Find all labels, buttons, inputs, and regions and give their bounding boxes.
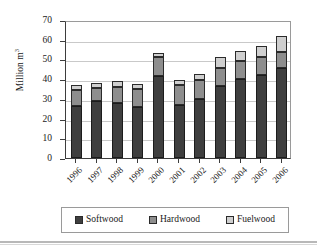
bar-segment-hardwood[interactable] <box>91 88 102 101</box>
bar-segment-fuelwood[interactable] <box>215 57 226 68</box>
bar-segment-hardwood[interactable] <box>174 85 185 105</box>
bar-segment-fuelwood[interactable] <box>71 85 82 90</box>
bar-segment-softwood[interactable] <box>153 76 164 158</box>
y-axis-tick-label: 50 <box>30 55 52 65</box>
y-axis-tick-label: 40 <box>30 75 52 85</box>
legend-label: Fuelwood <box>237 215 275 225</box>
legend-label: Hardwood <box>160 215 200 225</box>
bar-segment-softwood[interactable] <box>276 68 287 158</box>
bar-segment-hardwood[interactable] <box>112 87 123 103</box>
x-axis-tick <box>240 159 241 163</box>
y-axis-title: Million m3 <box>13 24 25 116</box>
bar-segment-softwood[interactable] <box>132 107 143 158</box>
gridline <box>66 42 290 43</box>
bar-segment-softwood[interactable] <box>215 86 226 158</box>
y-axis-tick-label: 70 <box>30 16 52 26</box>
legend-label: Softwood <box>86 215 123 225</box>
bar-segment-softwood[interactable] <box>235 79 246 158</box>
bar-segment-hardwood[interactable] <box>256 57 267 75</box>
bar-segment-softwood[interactable] <box>194 99 205 158</box>
x-axis-tick <box>96 159 97 163</box>
x-axis-tick <box>157 159 158 163</box>
bar-segment-softwood[interactable] <box>71 106 82 158</box>
x-axis-tick <box>219 159 220 163</box>
bar-segment-softwood[interactable] <box>174 105 185 158</box>
page-divider-rule-secondary <box>0 244 317 245</box>
bar-segment-fuelwood[interactable] <box>256 46 267 58</box>
bar-segment-hardwood[interactable] <box>215 68 226 86</box>
x-axis-tick <box>199 159 200 163</box>
x-axis-tick <box>116 159 117 163</box>
y-axis-tick-label: 0 <box>30 154 52 164</box>
legend-item-hardwood[interactable]: Hardwood <box>149 215 200 225</box>
bar-segment-hardwood[interactable] <box>153 57 164 76</box>
bar-segment-fuelwood[interactable] <box>194 74 205 80</box>
y-axis-tick-label: 10 <box>30 134 52 144</box>
bar-segment-hardwood[interactable] <box>132 89 143 107</box>
bar-segment-hardwood[interactable] <box>194 80 205 99</box>
chart-legend: SoftwoodHardwoodFuelwood <box>61 207 289 233</box>
page-divider-rule <box>0 241 317 243</box>
legend-swatch-icon <box>75 216 83 224</box>
x-axis-tick <box>178 159 179 163</box>
bar-segment-hardwood[interactable] <box>71 90 82 106</box>
plot-area <box>65 21 291 159</box>
bar-segment-fuelwood[interactable] <box>153 53 164 58</box>
legend-swatch-icon <box>226 216 234 224</box>
bar-segment-fuelwood[interactable] <box>112 81 123 87</box>
bar-segment-hardwood[interactable] <box>235 61 246 79</box>
legend-item-fuelwood[interactable]: Fuelwood <box>226 215 275 225</box>
x-axis-tick-label: 2001 <box>160 165 187 192</box>
y-axis-tick-label: 30 <box>30 95 52 105</box>
legend-swatch-icon <box>149 216 157 224</box>
bar-segment-fuelwood[interactable] <box>132 84 143 89</box>
y-axis-tick-label: 60 <box>30 36 52 46</box>
y-axis-tick-label: 20 <box>30 115 52 125</box>
bar-segment-hardwood[interactable] <box>276 52 287 69</box>
y-axis-title-text: Million m <box>15 52 25 91</box>
x-axis-tick <box>75 159 76 163</box>
bar-segment-softwood[interactable] <box>91 101 102 158</box>
x-axis-tick <box>137 159 138 163</box>
bar-segment-fuelwood[interactable] <box>91 83 102 88</box>
y-axis-title-superscript: 3 <box>13 49 20 52</box>
bar-segment-softwood[interactable] <box>256 75 267 158</box>
bar-segment-fuelwood[interactable] <box>235 51 246 62</box>
bar-segment-softwood[interactable] <box>112 103 123 158</box>
legend-item-softwood[interactable]: Softwood <box>75 215 123 225</box>
x-axis-tick <box>260 159 261 163</box>
figure: Million m3 010203040506070 1996199719981… <box>0 0 317 248</box>
bar-segment-fuelwood[interactable] <box>276 36 287 52</box>
x-axis-tick <box>281 159 282 163</box>
bar-segment-fuelwood[interactable] <box>174 80 185 85</box>
figure-inner: Million m3 010203040506070 1996199719981… <box>3 2 314 238</box>
y-axis-tick <box>60 159 65 160</box>
